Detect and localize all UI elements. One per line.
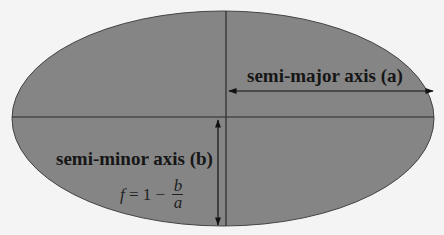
formula-fraction: b a	[172, 178, 183, 211]
fraction-numerator: b	[174, 178, 183, 194]
semi-major-axis-label: semi-major axis (a)	[247, 65, 403, 87]
semi-minor-axis-label: semi-minor axis (b)	[56, 148, 213, 170]
formula-minus: −	[151, 185, 169, 205]
flattening-formula: f = 1 − b a	[120, 178, 183, 211]
ellipse-figure	[0, 0, 444, 235]
ellipse-diagram: semi-major axis (a) semi-minor axis (b) …	[0, 0, 444, 235]
formula-one: 1	[143, 185, 152, 205]
ellipse-shape	[12, 11, 434, 226]
fraction-denominator: a	[174, 195, 183, 211]
formula-equals: =	[125, 185, 143, 205]
